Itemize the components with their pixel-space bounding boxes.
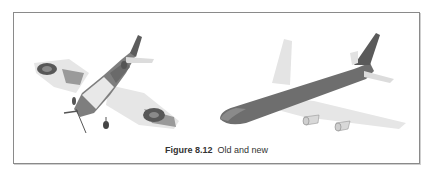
spitfire-icon xyxy=(34,35,179,133)
figure-caption: Figure 8.12 Old and new xyxy=(14,145,419,155)
figure-title: Old and new xyxy=(218,145,269,155)
jumbo-jet-icon xyxy=(220,33,406,131)
figure-illustration xyxy=(14,13,419,163)
figure-number: Figure 8.12 xyxy=(165,145,213,155)
figure-frame: Figure 8.12 Old and new xyxy=(13,12,420,164)
